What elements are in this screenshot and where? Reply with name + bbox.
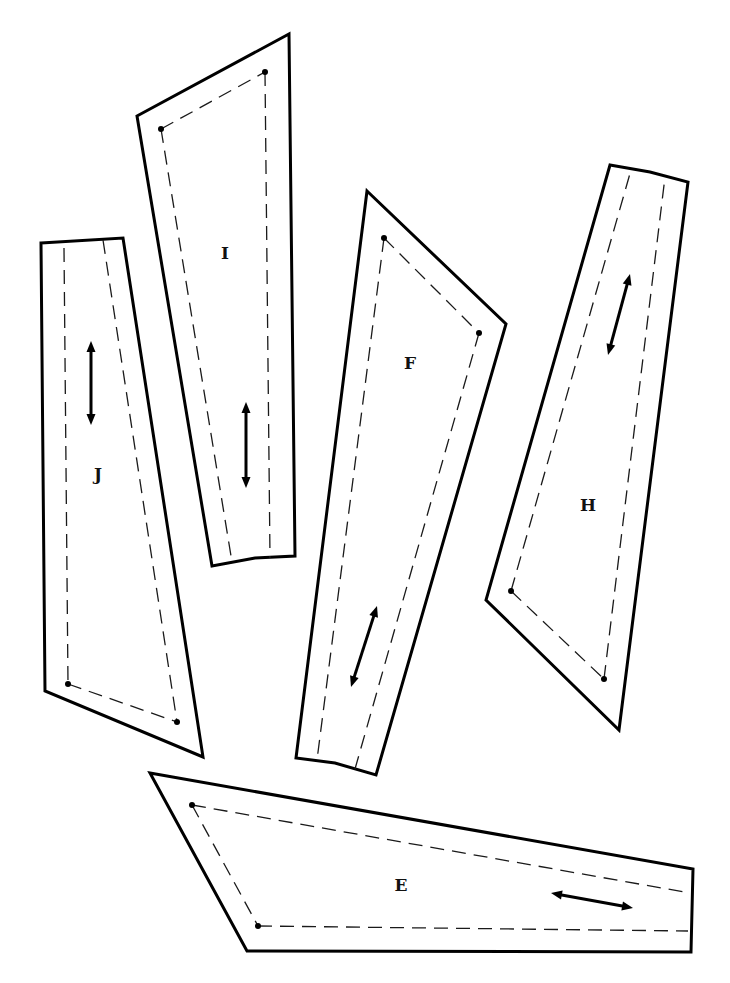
matching-dot-icon: [189, 802, 195, 808]
matching-dot-icon: [174, 719, 180, 725]
cutting-line: [296, 191, 506, 775]
pattern-pieces: IJFHE: [41, 34, 693, 952]
cutting-line: [486, 165, 688, 730]
cutting-line: [150, 773, 693, 952]
matching-dot-icon: [65, 681, 71, 687]
matching-dot-icon: [601, 676, 607, 682]
pattern-piece-e: E: [150, 773, 693, 952]
matching-dot-icon: [508, 588, 514, 594]
matching-dot-icon: [255, 923, 261, 929]
piece-label: J: [92, 464, 102, 484]
matching-dot-icon: [476, 330, 482, 336]
pattern-diagram: IJFHE: [0, 0, 730, 983]
piece-label: F: [404, 353, 416, 373]
piece-label: E: [395, 875, 408, 895]
matching-dot-icon: [262, 69, 268, 75]
piece-label: I: [221, 243, 229, 263]
piece-label: H: [580, 495, 596, 515]
pattern-piece-h: H: [486, 165, 688, 730]
matching-dot-icon: [381, 235, 387, 241]
matching-dot-icon: [158, 126, 164, 132]
pattern-piece-f: F: [296, 191, 506, 775]
